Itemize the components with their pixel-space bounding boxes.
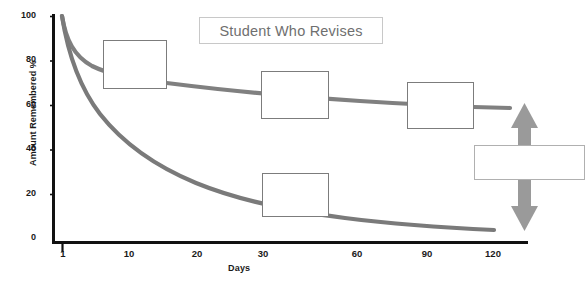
y-tick-label-100: 100 [6, 10, 36, 20]
y-tick-label-20: 20 [6, 188, 36, 198]
callout-box-1[interactable] [103, 40, 167, 89]
x-tick-label-1: 1 [46, 248, 80, 259]
chart-title-banner[interactable]: Student Who Revises [199, 17, 383, 44]
y-tick-label-60: 60 [6, 99, 36, 109]
callout-box-2[interactable] [261, 71, 329, 119]
x-tick-label-60: 60 [340, 248, 374, 259]
y-tick-label-40: 40 [6, 143, 36, 153]
figure-canvas: Amount Remembered % Days 100 80 60 40 20… [0, 0, 588, 286]
x-axis-title: Days [228, 263, 250, 273]
callout-box-4[interactable] [262, 173, 329, 217]
y-tick-label-80: 80 [6, 54, 36, 64]
y-tick-label-0: 0 [6, 232, 36, 242]
callout-box-3[interactable] [407, 82, 474, 129]
x-tick-label-30: 30 [246, 248, 280, 259]
gap-annotation-box[interactable] [474, 145, 585, 180]
chart-title-label: Student Who Revises [219, 23, 362, 39]
x-tick-label-90: 90 [410, 248, 444, 259]
x-tick-label-120: 120 [476, 248, 510, 259]
x-tick-label-10: 10 [112, 248, 146, 259]
x-tick-label-20: 20 [180, 248, 214, 259]
